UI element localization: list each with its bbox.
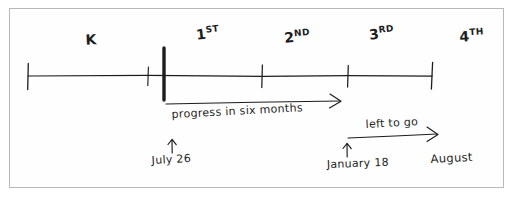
grade-label-4th: 4TH: [459, 26, 485, 44]
july-marker-label: July 26: [151, 152, 191, 167]
timeline-axis-line: [28, 75, 432, 76]
left-to-go-arrow-label: left to go: [365, 115, 418, 131]
tick-k-end: [148, 67, 149, 86]
august-end-label: August: [430, 150, 473, 166]
grade-3rd-ordinal: RD: [378, 23, 395, 35]
grade-label-2nd: 2ND: [284, 27, 311, 46]
tick-start: [28, 64, 29, 90]
grade-4th-ordinal: TH: [469, 26, 484, 37]
timeline-sketch: [0, 0, 514, 198]
grade-label-k: K: [85, 30, 97, 47]
grade-label-3rd: 3RD: [368, 23, 395, 43]
grade-label-1st: 1ST: [195, 23, 221, 42]
left-to-go-arrow-shaft: [348, 134, 437, 138]
grade-2nd-ordinal: ND: [294, 27, 311, 38]
grade-k-base: K: [85, 31, 97, 48]
diagram-canvas: K 1ST 2ND 3RD 4TH progress in six months…: [0, 0, 514, 198]
tick-end: [431, 63, 432, 90]
tick-1st-end: [262, 65, 263, 88]
grade-1st-ordinal: ST: [205, 23, 220, 35]
january-marker-label: January 18: [327, 156, 390, 171]
tick-2nd-end: [348, 66, 349, 88]
